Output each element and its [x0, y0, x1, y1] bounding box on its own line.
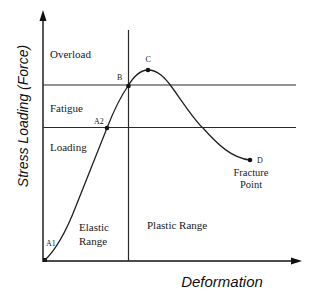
point-a1-label: A1 [46, 239, 56, 248]
point-c-dot [146, 68, 151, 73]
zone-loading-label: Loading [50, 141, 87, 153]
fracture-label-line1: Fracture [234, 167, 269, 178]
point-b-dot [126, 84, 131, 89]
point-c-label: C [146, 55, 151, 64]
point-d-label: D [257, 156, 263, 165]
x-axis [43, 258, 302, 265]
plastic-range-label: Plastic Range [147, 219, 207, 231]
x-axis-arrow-icon [291, 258, 302, 265]
stress-curve [44, 70, 250, 261]
elastic-range-label-line2: Range [79, 235, 107, 247]
zone-overload-label: Overload [50, 48, 91, 60]
point-a2-dot [105, 126, 110, 131]
zone-fatigue-label: Fatigue [50, 102, 83, 114]
point-b-label: B [117, 73, 122, 82]
stress-deformation-diagram: A1 A2 B C D Overload Fatigue Loading Ela… [0, 0, 314, 294]
y-axis-title: Stress Loading (Force) [15, 45, 31, 187]
fracture-label-line2: Point [240, 179, 262, 190]
point-a2-label: A2 [94, 117, 104, 126]
x-axis-title: Deformation [181, 273, 263, 290]
elastic-range-label-line1: Elastic [79, 221, 109, 233]
y-axis [40, 10, 47, 262]
y-axis-arrow-icon [40, 10, 47, 21]
point-d-dot [248, 158, 253, 163]
